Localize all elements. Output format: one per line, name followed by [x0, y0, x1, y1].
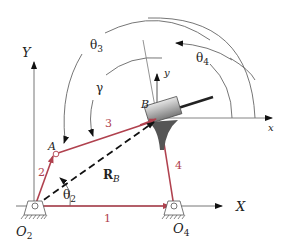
theta3-arc-lower	[64, 54, 82, 143]
gamma-arc-upper	[106, 58, 162, 75]
label-A: A	[47, 140, 56, 153]
local-x-label: x	[268, 122, 274, 133]
theta4-arc-right	[210, 64, 232, 118]
gamma-arc-lower	[91, 100, 94, 136]
link-3	[55, 122, 151, 154]
label-O4: O4	[173, 221, 190, 238]
label-link-2: 2	[38, 166, 45, 179]
label-O2: O2	[16, 224, 32, 241]
local-y-label: y	[163, 67, 170, 78]
link-2	[35, 156, 53, 206]
global-x-label: X	[235, 199, 246, 214]
vector-RB	[35, 122, 154, 206]
ground-pivot-O2	[21, 201, 47, 219]
global-y-label: Y	[22, 45, 32, 60]
label-link-3: 3	[105, 117, 112, 130]
slider-block	[144, 96, 182, 123]
label-theta3: θ3	[90, 38, 103, 54]
label-B: B	[140, 98, 149, 111]
label-link-4: 4	[175, 159, 182, 172]
slider-rod	[175, 97, 213, 109]
label-gamma: γ	[96, 81, 103, 95]
label-link-1: 1	[104, 212, 111, 225]
ground-pivot-O4	[162, 201, 185, 219]
rocker-pad	[148, 120, 178, 150]
label-RB: RB	[103, 168, 120, 184]
linkage-diagram: Y X x y	[0, 0, 288, 251]
theta4-arc-mid	[230, 58, 255, 80]
label-theta4: θ4	[196, 51, 209, 67]
label-theta2: θ2	[63, 188, 76, 204]
